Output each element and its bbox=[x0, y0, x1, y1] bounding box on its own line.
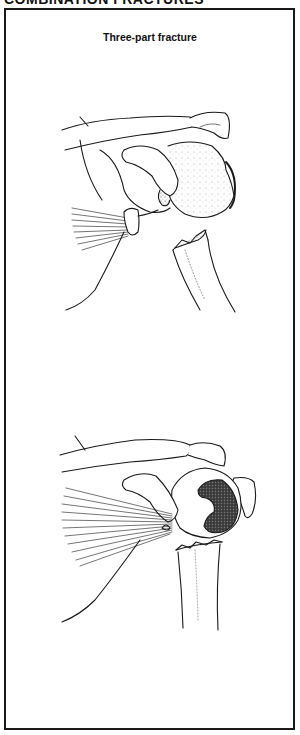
upper-illustration bbox=[0, 0, 300, 735]
